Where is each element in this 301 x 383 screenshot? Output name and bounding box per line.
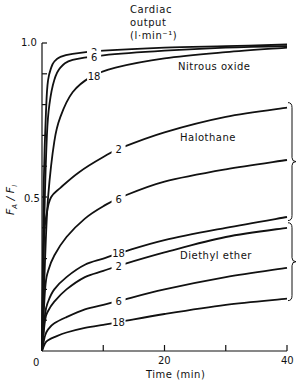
series-label: 18 (112, 248, 125, 259)
group-brace (288, 223, 296, 301)
series-label: 2 (115, 261, 121, 272)
chart-plot-area: 261826182618 (0, 0, 301, 383)
x-tick-label-0: 0 (33, 357, 39, 368)
curves (42, 45, 287, 352)
series-line (42, 48, 287, 351)
x-tick-label-20: 20 (158, 355, 171, 366)
x-tick-label-40: 40 (281, 355, 294, 366)
axes (42, 43, 287, 351)
legend-title: Cardiac output (l·min⁻¹) (130, 3, 177, 42)
x-axis-label: Time (min) (146, 369, 205, 380)
y-tick-label-1: 1.0 (21, 37, 37, 48)
series-line (42, 45, 287, 352)
series-label: 6 (91, 52, 97, 63)
legend-title-line2: output (130, 16, 177, 29)
series-line (42, 46, 287, 351)
series-label: 18 (112, 317, 125, 328)
series-line (42, 299, 287, 351)
legend-title-line3: (l·min⁻¹) (130, 29, 177, 42)
group-label-diethyl-ether: Diethyl ether (180, 250, 252, 261)
series-label: 6 (115, 194, 121, 205)
curve-labels: 261826182618 (87, 46, 126, 329)
series-label: 2 (115, 144, 121, 155)
y-tick-label-0-5: 0.5 (24, 193, 40, 204)
group-braces (288, 103, 296, 301)
group-label-halothane: Halothane (180, 132, 236, 143)
legend-title-line1: Cardiac (130, 3, 177, 16)
series-label: 18 (88, 71, 101, 82)
group-brace (288, 103, 296, 221)
series-line (42, 217, 287, 351)
series-label: 6 (115, 296, 121, 307)
group-label-nitrous-oxide: Nitrous oxide (178, 61, 250, 72)
y-axis-label: FA / FI (4, 185, 19, 215)
